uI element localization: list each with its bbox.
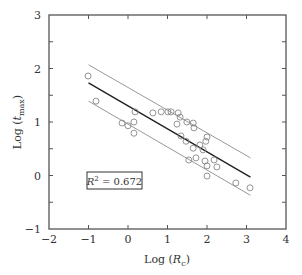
x-tick-label: 0 <box>125 233 132 246</box>
x-tick-label: 1 <box>164 233 171 246</box>
data-point <box>190 145 196 151</box>
data-point <box>93 98 99 104</box>
x-tick-label: 2 <box>204 233 211 246</box>
data-point <box>85 73 91 79</box>
regression-line <box>89 83 251 177</box>
scatter-chart: −2−101234 −10123 R2 = 0.672 Log (Rc) Log… <box>0 0 302 275</box>
data-point <box>174 121 180 127</box>
data-point <box>204 173 210 179</box>
y-tick-label: 3 <box>34 9 41 22</box>
x-tick-label: −1 <box>80 233 96 246</box>
chart-canvas: −2−101234 −10123 R2 = 0.672 Log (Rc) Log… <box>0 0 302 275</box>
data-point <box>214 164 220 170</box>
plot-frame <box>49 15 286 229</box>
x-tick-label: 4 <box>283 233 290 246</box>
y-tick-label: 2 <box>34 63 41 76</box>
data-point <box>158 109 164 115</box>
data-point <box>131 119 137 125</box>
x-tick-label: 3 <box>243 233 250 246</box>
annotation-text: R2 = 0.672 <box>86 175 142 187</box>
y-tick-label: 1 <box>34 116 41 129</box>
data-point <box>247 185 253 191</box>
data-point <box>211 157 217 163</box>
data-point <box>204 134 210 140</box>
x-tick-label: −2 <box>41 233 57 246</box>
r-squared-annotation: R2 = 0.672 <box>86 172 142 189</box>
data-point <box>150 110 156 116</box>
regression-line <box>89 83 251 177</box>
upper-bound-line <box>89 65 251 158</box>
x-axis-ticks: −2−101234 <box>41 15 290 246</box>
data-point <box>193 155 199 161</box>
data-point <box>233 180 239 186</box>
y-axis-label: Log (tmax) <box>11 95 26 149</box>
y-tick-label: −1 <box>25 223 41 236</box>
x-axis-label: Log (Rc) <box>144 253 190 268</box>
data-point <box>131 130 137 136</box>
data-point <box>203 138 209 144</box>
y-tick-label: 0 <box>34 170 41 183</box>
